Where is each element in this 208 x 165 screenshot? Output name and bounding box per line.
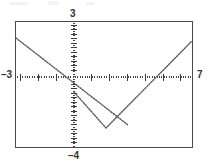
absolute-value-plot bbox=[74, 41, 192, 128]
x-max-label: 7 bbox=[197, 70, 203, 80]
y-min-label: –4 bbox=[68, 151, 79, 161]
scan-artifact bbox=[48, 1, 58, 5]
plot-canvas bbox=[15, 21, 193, 148]
descending-line-plot bbox=[16, 38, 128, 125]
scan-artifact bbox=[86, 2, 94, 5]
graph-screenshot: 3 –4 –3 7 bbox=[0, 0, 208, 165]
scan-artifact bbox=[10, 2, 28, 5]
y-max-label: 3 bbox=[70, 9, 76, 19]
x-min-label: –3 bbox=[1, 70, 12, 80]
